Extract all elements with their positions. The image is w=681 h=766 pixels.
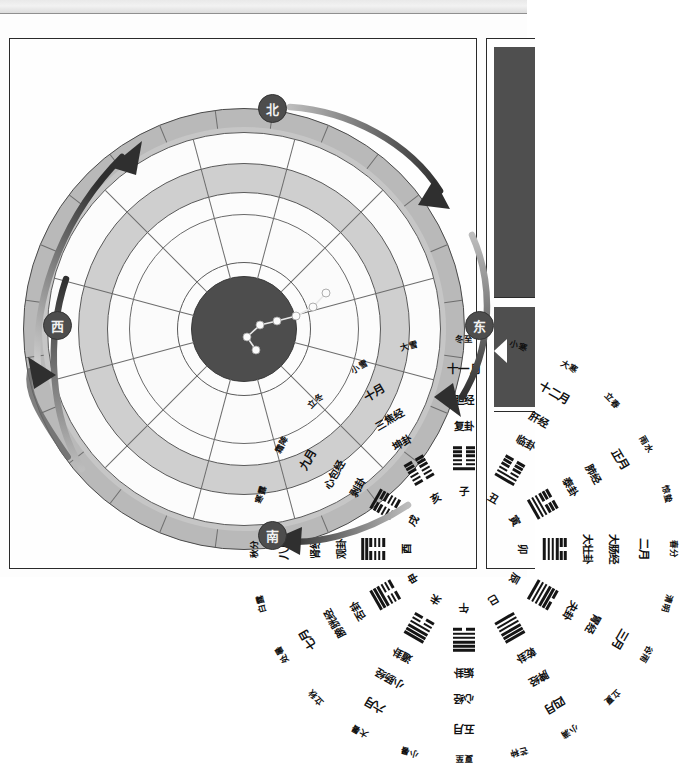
hexagram-name-label: 否卦 [345,598,368,623]
hexagram-name-label: 泰卦 [560,474,583,499]
cosmology-wheel: 冬至小寒大寒立春雨水惊蛰春分清明谷雨立夏小满芒种夏至小暑大暑立秋处暑白露秋分寒露… [24,109,464,549]
solar-term-label: 谷雨 [637,643,657,665]
solar-term-label: 春分 [669,540,681,559]
month-label: 四月 [541,693,569,718]
solar-term-label: 立夏 [602,687,624,709]
yang-line [556,538,559,560]
solar-term-label: 处暑 [271,643,291,665]
solar-term-label: 小暑 [399,745,420,761]
solar-term-label: 大暑 [347,722,369,742]
yin-line [370,538,373,560]
month-label: 二月 [637,538,653,561]
direction-badge-north: 北 [258,94,287,123]
month-label: 三月 [608,626,633,654]
hexagram-name-label: 复卦 [454,418,475,433]
earthly-branch-label: 亥 [426,489,442,507]
yin-line [453,463,475,466]
earthly-branch-label: 卯 [516,544,531,554]
meridian-label: 膀胱经 [320,607,348,641]
side-panel-rule-1 [494,297,535,298]
window-top-strip [0,0,527,14]
solar-term-label: 大寒 [558,356,580,376]
hexagram-name-label: 姤卦 [454,666,475,681]
earthly-branch-label: 辰 [506,570,524,586]
solar-term-label: 小满 [558,722,580,742]
meridian-label: 脾经 [526,667,551,690]
side-panel-notch [494,339,507,363]
direction-badge-east: 东 [465,311,494,340]
yin-line [453,446,475,449]
hexagram-name-label: 乾卦 [513,645,538,668]
yang-line [547,538,550,560]
side-panel-block-upper [494,47,535,297]
month-label: 正月 [608,445,633,473]
meridian-label: 小肠经 [372,665,406,693]
yang-line [543,538,546,560]
yin-line [453,628,475,631]
side-panel-rule-2 [494,411,535,412]
month-label: 十二月 [536,377,573,408]
solar-term-label: 立春 [602,389,624,411]
yin-line [453,459,475,462]
yang-line [453,641,475,644]
yang-line [453,467,475,470]
hexagram-name-label: 遁卦 [389,645,414,668]
yang-line [453,637,475,640]
yang-line [361,538,364,560]
meridian-label: 心经 [454,692,475,707]
earthly-branch-label: 巳 [485,591,501,609]
yin-line [382,538,385,560]
solar-term-label: 白露 [252,593,268,614]
yang-line [552,538,555,560]
earthly-branch-label: 子 [459,483,469,498]
direction-badge-south: 南 [258,521,287,550]
yang-line [365,538,368,560]
diagram-frame: 冬至小寒大寒立春雨水惊蛰春分清明谷雨立夏小满芒种夏至小暑大暑立秋处暑白露秋分寒露… [9,38,477,569]
yin-line [374,538,377,560]
solar-term-label: 秋分 [247,540,259,559]
month-label: 十一月 [447,360,481,376]
solar-term-label: 芒种 [508,745,529,761]
month-label: 七月 [295,626,320,654]
yang-line [453,632,475,635]
earthly-branch-label: 申 [404,570,422,586]
meridian-label: 大肠经 [607,534,622,565]
yang-line [453,649,475,652]
earthly-branch-label: 酉 [398,544,413,554]
solar-term-label: 清明 [660,593,676,614]
solar-term-label: 惊蛰 [660,484,676,505]
yin-line [453,450,475,453]
hexagram-name-label: 大壮卦 [581,534,596,565]
hexagram-name-label: 夬卦 [560,598,583,623]
earthly-branch-label: 午 [459,601,469,616]
meridian-label: 胃经 [582,611,605,636]
direction-badge-west: 西 [43,311,72,340]
month-label: 六月 [360,693,388,718]
yin-line [564,538,567,560]
month-label: 五月 [453,722,476,738]
yin-line [560,538,563,560]
page-sheet: 冬至小寒大寒立春雨水惊蛰春分清明谷雨立夏小满芒种夏至小暑大暑立秋处暑白露秋分寒露… [0,14,527,577]
solar-term-label: 立秋 [304,687,326,709]
meridian-label: 肺经 [582,461,605,486]
solar-term-label: 雨水 [637,432,657,454]
yin-line [453,455,475,458]
yin-line [378,538,381,560]
solar-term-label: 夏至 [455,754,474,766]
yang-line [453,645,475,648]
meridian-label: 肾经 [307,539,322,560]
earthly-branch-label: 戌 [404,511,422,527]
hexagram-name-label: 观卦 [333,539,348,560]
earthly-branch-label: 未 [426,591,442,609]
meridian-label: 胆经 [454,392,475,407]
